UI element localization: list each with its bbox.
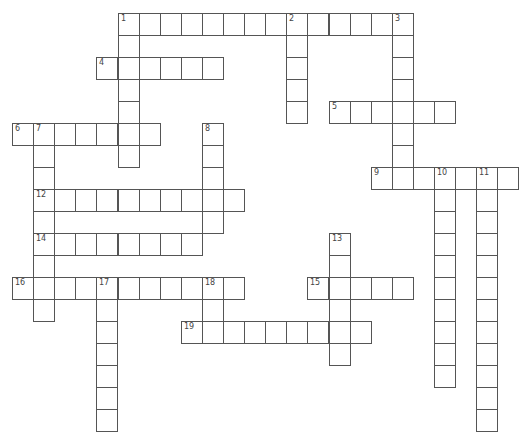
crossword-cell[interactable]: 9 — [371, 167, 393, 190]
crossword-cell[interactable] — [160, 57, 182, 80]
crossword-cell[interactable] — [160, 189, 182, 212]
crossword-cell[interactable]: 15 — [307, 277, 329, 300]
crossword-cell[interactable] — [202, 13, 224, 36]
crossword-cell[interactable] — [476, 189, 498, 212]
crossword-cell[interactable]: 2 — [286, 13, 308, 36]
crossword-cell[interactable] — [265, 13, 287, 36]
crossword-cell[interactable] — [392, 79, 414, 102]
crossword-cell[interactable] — [455, 167, 477, 190]
crossword-cell[interactable] — [286, 101, 308, 124]
crossword-cell[interactable] — [476, 343, 498, 366]
crossword-cell[interactable] — [118, 35, 140, 58]
crossword-cell[interactable] — [413, 167, 435, 190]
crossword-cell[interactable] — [476, 321, 498, 344]
crossword-cell[interactable] — [75, 123, 97, 146]
crossword-cell[interactable] — [371, 101, 393, 124]
crossword-cell[interactable] — [118, 145, 140, 168]
crossword-cell[interactable] — [350, 13, 372, 36]
crossword-cell[interactable] — [54, 277, 76, 300]
crossword-cell[interactable] — [223, 277, 245, 300]
crossword-cell[interactable] — [181, 57, 203, 80]
crossword-cell[interactable] — [434, 277, 456, 300]
crossword-cell[interactable] — [244, 321, 266, 344]
crossword-cell[interactable] — [202, 299, 224, 322]
crossword-cell[interactable] — [392, 145, 414, 168]
crossword-cell[interactable] — [476, 409, 498, 432]
crossword-cell[interactable] — [54, 233, 76, 256]
crossword-cell[interactable] — [54, 189, 76, 212]
crossword-cell[interactable] — [96, 233, 118, 256]
crossword-cell[interactable]: 12 — [33, 189, 55, 212]
crossword-cell[interactable] — [392, 101, 414, 124]
crossword-cell[interactable] — [33, 145, 55, 168]
crossword-cell[interactable] — [392, 277, 414, 300]
crossword-cell[interactable] — [118, 189, 140, 212]
crossword-cell[interactable] — [434, 321, 456, 344]
crossword-cell[interactable] — [75, 233, 97, 256]
crossword-cell[interactable]: 4 — [96, 57, 118, 80]
crossword-cell[interactable] — [392, 167, 414, 190]
crossword-cell[interactable]: 8 — [202, 123, 224, 146]
crossword-cell[interactable] — [139, 277, 161, 300]
crossword-cell[interactable]: 7 — [33, 123, 55, 146]
crossword-cell[interactable] — [434, 233, 456, 256]
crossword-cell[interactable] — [476, 387, 498, 410]
crossword-cell[interactable] — [434, 211, 456, 234]
crossword-cell[interactable] — [96, 299, 118, 322]
crossword-cell[interactable] — [476, 299, 498, 322]
crossword-cell[interactable] — [181, 277, 203, 300]
crossword-cell[interactable] — [181, 189, 203, 212]
crossword-cell[interactable] — [329, 343, 351, 366]
crossword-cell[interactable] — [202, 145, 224, 168]
crossword-cell[interactable] — [350, 277, 372, 300]
crossword-cell[interactable] — [434, 365, 456, 388]
crossword-cell[interactable] — [413, 101, 435, 124]
crossword-cell[interactable] — [118, 233, 140, 256]
crossword-cell[interactable] — [476, 255, 498, 278]
crossword-cell[interactable] — [33, 211, 55, 234]
crossword-cell[interactable] — [118, 101, 140, 124]
crossword-cell[interactable] — [139, 57, 161, 80]
crossword-cell[interactable]: 19 — [181, 321, 203, 344]
crossword-cell[interactable] — [286, 321, 308, 344]
crossword-cell[interactable] — [371, 13, 393, 36]
crossword-cell[interactable] — [244, 13, 266, 36]
crossword-cell[interactable] — [160, 233, 182, 256]
crossword-cell[interactable] — [329, 277, 351, 300]
crossword-cell[interactable] — [139, 189, 161, 212]
crossword-cell[interactable] — [160, 277, 182, 300]
crossword-cell[interactable] — [392, 35, 414, 58]
crossword-cell[interactable]: 10 — [434, 167, 456, 190]
crossword-cell[interactable] — [329, 321, 351, 344]
crossword-cell[interactable] — [118, 79, 140, 102]
crossword-cell[interactable] — [54, 123, 76, 146]
crossword-cell[interactable]: 3 — [392, 13, 414, 36]
crossword-cell[interactable]: 17 — [96, 277, 118, 300]
crossword-cell[interactable]: 11 — [476, 167, 498, 190]
crossword-cell[interactable] — [160, 13, 182, 36]
crossword-cell[interactable] — [118, 277, 140, 300]
crossword-cell[interactable]: 14 — [33, 233, 55, 256]
crossword-cell[interactable] — [202, 167, 224, 190]
crossword-cell[interactable] — [75, 277, 97, 300]
crossword-cell[interactable] — [181, 233, 203, 256]
crossword-cell[interactable] — [392, 123, 414, 146]
crossword-cell[interactable] — [202, 211, 224, 234]
crossword-cell[interactable] — [286, 79, 308, 102]
crossword-cell[interactable] — [33, 299, 55, 322]
crossword-cell[interactable] — [223, 13, 245, 36]
crossword-cell[interactable]: 18 — [202, 277, 224, 300]
crossword-cell[interactable] — [392, 57, 414, 80]
crossword-cell[interactable] — [476, 365, 498, 388]
crossword-cell[interactable] — [434, 189, 456, 212]
crossword-cell[interactable] — [476, 277, 498, 300]
crossword-cell[interactable] — [350, 321, 372, 344]
crossword-cell[interactable] — [96, 189, 118, 212]
crossword-cell[interactable] — [350, 101, 372, 124]
crossword-cell[interactable] — [476, 233, 498, 256]
crossword-cell[interactable] — [96, 365, 118, 388]
crossword-cell[interactable] — [434, 343, 456, 366]
crossword-cell[interactable] — [286, 35, 308, 58]
crossword-cell[interactable] — [476, 211, 498, 234]
crossword-cell[interactable] — [96, 387, 118, 410]
